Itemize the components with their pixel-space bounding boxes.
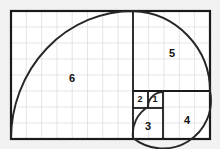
square-label-3: 3 <box>145 120 151 132</box>
square-label-5: 5 <box>169 47 175 59</box>
square-label-1: 1 <box>152 94 157 104</box>
fibonacci-spiral-svg: 6 5 4 3 2 1 <box>0 0 220 149</box>
square-label-2: 2 <box>137 94 142 104</box>
square-label-6: 6 <box>69 72 75 84</box>
fibonacci-diagram-canvas: 6 5 4 3 2 1 <box>0 0 220 149</box>
square-label-4: 4 <box>184 114 191 126</box>
